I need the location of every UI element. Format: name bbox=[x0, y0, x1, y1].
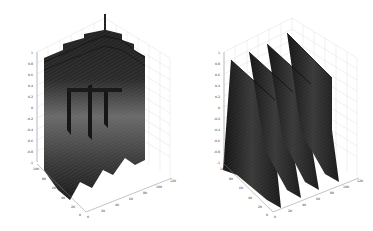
surface-plot-2: 1 0.8 0.6 0.4 0.2 0 -0.2 -0.4 -0.6 -0.8 … bbox=[187, 0, 373, 231]
svg-text:20: 20 bbox=[258, 205, 262, 209]
svg-text:20: 20 bbox=[101, 209, 105, 213]
svg-text:100: 100 bbox=[33, 167, 39, 171]
svg-text:0: 0 bbox=[218, 106, 220, 110]
svg-text:40: 40 bbox=[115, 203, 119, 207]
surface-plot-1-canvas: 1 0.8 0.6 0.4 0.2 0 -0.2 -0.4 -0.6 -0.8 … bbox=[0, 0, 186, 231]
svg-text:0: 0 bbox=[31, 106, 33, 110]
z-axis: 1 0.8 0.6 0.4 0.2 0 -0.2 -0.4 -0.6 -0.8 … bbox=[27, 51, 37, 165]
svg-text:60: 60 bbox=[316, 197, 320, 201]
svg-text:0: 0 bbox=[79, 213, 81, 217]
svg-text:0: 0 bbox=[274, 215, 276, 219]
svg-text:0.8: 0.8 bbox=[215, 62, 220, 66]
svg-text:-0.2: -0.2 bbox=[27, 117, 33, 121]
svg-text:100: 100 bbox=[156, 185, 162, 189]
svg-text:60: 60 bbox=[129, 197, 133, 201]
svg-text:-0.8: -0.8 bbox=[214, 150, 220, 154]
svg-text:0.6: 0.6 bbox=[28, 73, 33, 77]
svg-text:40: 40 bbox=[61, 196, 65, 200]
svg-text:0.4: 0.4 bbox=[28, 84, 33, 88]
z-axis: 1 0.8 0.6 0.4 0.2 0 -0.2 -0.4 -0.6 -0.8 … bbox=[214, 51, 224, 165]
svg-text:-0.6: -0.6 bbox=[214, 139, 220, 143]
svg-text:80: 80 bbox=[330, 191, 334, 195]
svg-text:40: 40 bbox=[248, 196, 252, 200]
svg-text:1: 1 bbox=[31, 51, 33, 55]
svg-text:1: 1 bbox=[218, 51, 220, 55]
svg-text:-0.4: -0.4 bbox=[27, 128, 33, 132]
svg-text:20: 20 bbox=[288, 209, 292, 213]
svg-text:80: 80 bbox=[229, 177, 233, 181]
svg-text:100: 100 bbox=[220, 167, 226, 171]
svg-text:0.6: 0.6 bbox=[215, 73, 220, 77]
svg-text:-0.2: -0.2 bbox=[214, 117, 220, 121]
surface bbox=[44, 14, 145, 200]
svg-text:-0.8: -0.8 bbox=[27, 150, 33, 154]
svg-text:0.4: 0.4 bbox=[215, 84, 220, 88]
svg-text:80: 80 bbox=[42, 177, 46, 181]
svg-text:0.2: 0.2 bbox=[28, 95, 33, 99]
svg-text:40: 40 bbox=[302, 203, 306, 207]
svg-text:-0.4: -0.4 bbox=[214, 128, 220, 132]
svg-text:0.2: 0.2 bbox=[215, 95, 220, 99]
surface-plot-2-canvas: 1 0.8 0.6 0.4 0.2 0 -0.2 -0.4 -0.6 -0.8 … bbox=[187, 0, 373, 231]
svg-text:80: 80 bbox=[143, 191, 147, 195]
surface-plot-1: 1 0.8 0.6 0.4 0.2 0 -0.2 -0.4 -0.6 -0.8 … bbox=[0, 0, 186, 231]
svg-text:-1: -1 bbox=[30, 161, 33, 165]
svg-text:0.8: 0.8 bbox=[28, 62, 33, 66]
svg-text:-1: -1 bbox=[217, 161, 220, 165]
x-axis: 0 20 40 60 80 100 120 bbox=[86, 178, 176, 219]
svg-text:100: 100 bbox=[343, 185, 349, 189]
svg-text:-0.6: -0.6 bbox=[27, 139, 33, 143]
surface bbox=[223, 33, 339, 208]
svg-text:20: 20 bbox=[71, 205, 75, 209]
svg-text:60: 60 bbox=[52, 186, 56, 190]
svg-text:0: 0 bbox=[266, 213, 268, 217]
svg-text:0: 0 bbox=[87, 215, 89, 219]
svg-text:120: 120 bbox=[170, 179, 176, 183]
svg-text:60: 60 bbox=[239, 186, 243, 190]
svg-text:120: 120 bbox=[357, 179, 363, 183]
